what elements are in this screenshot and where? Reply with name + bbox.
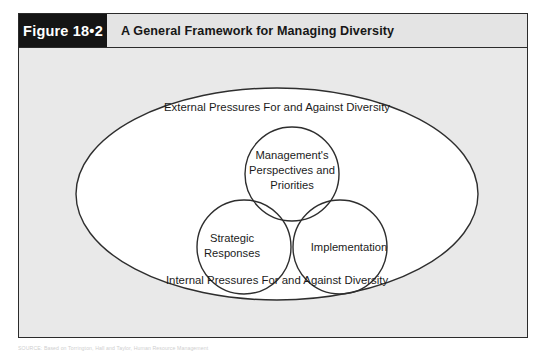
management-perspectives-line-3: Priorities	[270, 179, 314, 191]
management-perspectives-line-2: Perspectives and	[249, 164, 335, 176]
figure-title-area: A General Framework for Managing Diversi…	[107, 14, 527, 47]
figure-number-box: Figure 18•2	[19, 14, 107, 47]
external-pressures-label: External Pressures For and Against Diver…	[164, 101, 390, 113]
implementation-label: Implementation	[311, 241, 388, 253]
strategic-responses-line-1: Strategic	[210, 232, 255, 244]
diagram-canvas: External Pressures For and Against Diver…	[19, 48, 526, 336]
venn-diagram: External Pressures For and Against Diver…	[19, 48, 526, 336]
figure-header: Figure 18•2 A General Framework for Mana…	[19, 14, 527, 48]
figure-number-label: Figure 18•2	[23, 23, 103, 39]
management-perspectives-line-1: Management's	[255, 149, 328, 161]
source-caption: SOURCE: Based on Torrington, Hall and Ta…	[18, 345, 518, 351]
strategic-responses-line-2: Responses	[204, 247, 260, 259]
figure-container: Figure 18•2 A General Framework for Mana…	[18, 13, 528, 338]
internal-pressures-label: Internal Pressures For and Against Diver…	[166, 274, 389, 286]
figure-title: A General Framework for Managing Diversi…	[121, 24, 394, 38]
outer-ellipse	[76, 88, 478, 300]
